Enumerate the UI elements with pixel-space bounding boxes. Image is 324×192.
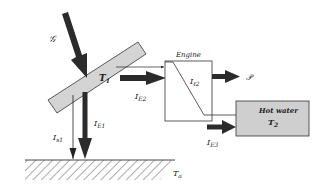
power-label: 𝒫 [246, 73, 254, 82]
ground-hatching [25, 160, 175, 180]
loss-e1-arrow [78, 92, 92, 159]
irradiance-label: 𝒢 [49, 34, 57, 44]
diagram-canvas: 𝒢 T1 IE2 Engine Iℓ2 𝒫 Hot water T2 IE3 I… [0, 0, 324, 192]
loss-e1-label: IE1 [93, 119, 105, 129]
loss-e2-label: IE2 [134, 92, 147, 102]
irradiance-arrow [62, 12, 87, 78]
ground [25, 160, 175, 180]
loss-e3-arrow [207, 120, 236, 134]
ambient-temp-label: Ta [173, 169, 182, 179]
hot-water-label: Hot water [258, 106, 299, 115]
engine-box [165, 61, 212, 121]
power-arrow [212, 70, 240, 83]
engine-label: Engine [175, 51, 201, 59]
loss-s1-arrowhead [70, 148, 77, 159]
loss-e2-arrow [120, 71, 166, 85]
loss-s1-label: Is1 [52, 133, 63, 143]
loss-e3-label: IE3 [206, 138, 219, 148]
